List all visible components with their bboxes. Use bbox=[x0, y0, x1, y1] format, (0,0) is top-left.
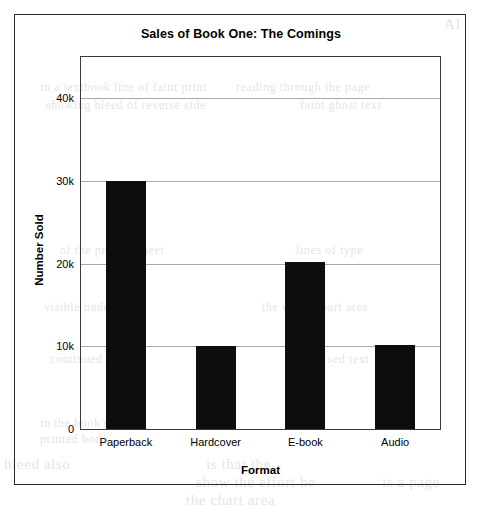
bar bbox=[196, 346, 236, 429]
figure-frame: Sales of Book One: The Comings 010k20k30… bbox=[14, 14, 466, 485]
y-tick-label: 30k bbox=[56, 175, 74, 187]
y-tick-label: 10k bbox=[56, 340, 74, 352]
x-axis-title: Format bbox=[80, 464, 441, 476]
y-tick-label: 0 bbox=[68, 423, 74, 435]
bar bbox=[375, 345, 415, 429]
y-axis-title: Number Sold bbox=[33, 214, 45, 286]
plot-area: 010k20k30k40k PaperbackHardcoverE-bookAu… bbox=[80, 56, 441, 430]
x-tick-label: Audio bbox=[381, 436, 409, 448]
y-tick-label: 40k bbox=[56, 92, 74, 104]
scan-bleed-text: the chart area bbox=[186, 492, 275, 509]
bar bbox=[106, 181, 146, 429]
x-tick-label: Paperback bbox=[100, 436, 153, 448]
x-tick-label: Hardcover bbox=[190, 436, 241, 448]
bars-layer bbox=[81, 57, 440, 429]
chart-title: Sales of Book One: The Comings bbox=[15, 27, 467, 41]
y-tick-label: 20k bbox=[56, 258, 74, 270]
x-tick-label: E-book bbox=[288, 436, 323, 448]
bar bbox=[285, 262, 325, 429]
